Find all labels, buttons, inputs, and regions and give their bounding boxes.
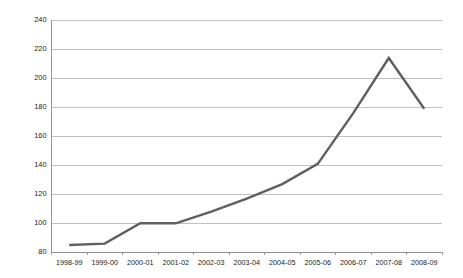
line-chart: 80100120140160180200220240 1998-991999-0… <box>0 0 463 278</box>
y-axis-tick-label: 80 <box>38 247 46 256</box>
x-axis-tick-label: 2003-04 <box>234 258 260 267</box>
x-axis-tick-label: 2001-02 <box>163 258 189 267</box>
y-axis-tick-label: 220 <box>34 44 46 53</box>
chart-canvas: 80100120140160180200220240 1998-991999-0… <box>0 0 463 278</box>
x-axis-tick-label: 2005-06 <box>305 258 331 267</box>
x-axis-tick-label: 2007-08 <box>376 258 402 267</box>
y-axis-tick-label: 180 <box>34 102 46 111</box>
x-axis-tick-label: 1999-00 <box>92 258 118 267</box>
x-axis-tick-label: 2008-09 <box>411 258 437 267</box>
y-axis-tick-label: 100 <box>34 218 46 227</box>
x-tick-labels-group: 1998-991999-002000-012001-022002-032003-… <box>56 258 437 267</box>
data-series-group <box>69 58 424 245</box>
y-axis-tick-label: 140 <box>34 160 46 169</box>
y-axis-tick-label: 240 <box>34 15 46 24</box>
x-axis-tick-label: 2006-07 <box>340 258 366 267</box>
y-axis-tick-label: 160 <box>34 131 46 140</box>
gridlines-group <box>52 20 443 252</box>
y-axis-tick-label: 200 <box>34 73 46 82</box>
x-axis-tick-label: 1998-99 <box>56 258 82 267</box>
x-axis-tick-label: 2000-01 <box>127 258 153 267</box>
y-axis-tick-label: 120 <box>34 189 46 198</box>
x-axis-tick-label: 2004-05 <box>269 258 295 267</box>
x-axis-tick-label: 2002-03 <box>198 258 224 267</box>
data-line-series-1 <box>69 58 424 245</box>
y-tick-labels-group: 80100120140160180200220240 <box>34 15 46 256</box>
